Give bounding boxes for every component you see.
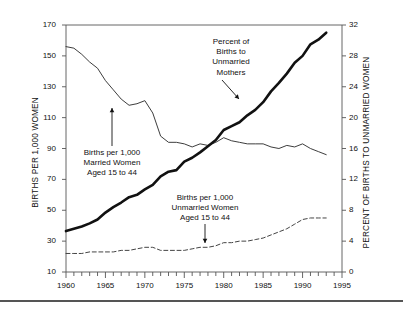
y-axis-right-tick-label: 8 xyxy=(349,205,369,214)
y-axis-right-tick-label: 16 xyxy=(349,144,369,153)
y-axis-right-tick-label: 20 xyxy=(349,113,369,122)
unmarried-annotation-line-3: Aged 15 to 44 xyxy=(150,213,260,223)
y-axis-left-tick-label: 130 xyxy=(30,82,56,91)
y-axis-left-tick-label: 170 xyxy=(30,20,56,29)
y-axis-right-tick-label: 28 xyxy=(349,51,369,60)
unmarried-annotation-line-1: Births per 1,000 xyxy=(150,193,260,203)
x-axis-tick-label: 1975 xyxy=(167,281,201,290)
unmarried-women-annotation: Births per 1,000 Unmarried Women Aged 15… xyxy=(150,193,260,224)
married-arrow-head xyxy=(110,108,115,112)
y-axis-right-tick-label: 4 xyxy=(349,236,369,245)
y-axis-right-tick-label: 24 xyxy=(349,82,369,91)
percent-annotation-line-3: Unmarried xyxy=(192,57,270,67)
y-axis-right-title: PERCENT OF BIRTHS TO UNMARRIED WOMEN xyxy=(362,38,371,268)
x-axis-tick-label: 1990 xyxy=(286,281,320,290)
percent-annotation-line-2: Births to xyxy=(192,47,270,57)
y-axis-left-title: BIRTHS PER 1,000 WOMEN xyxy=(31,38,40,268)
bottom-divider-rule xyxy=(0,300,403,302)
y-axis-left-tick-label: 150 xyxy=(30,51,56,60)
x-axis-tick-label: 1960 xyxy=(49,281,83,290)
y-axis-left-tick-label: 90 xyxy=(30,144,56,153)
percent-annotation-line-4: Mothers xyxy=(192,68,270,78)
y-axis-left-tick-label: 30 xyxy=(30,236,56,245)
x-axis-tick-label: 1995 xyxy=(325,281,359,290)
y-axis-right-tick-label: 12 xyxy=(349,174,369,183)
y-axis-left-tick-label: 110 xyxy=(30,113,56,122)
y-axis-left-tick-label: 50 xyxy=(30,205,56,214)
married-women-annotation: Births per 1,000 Married Women Aged 15 t… xyxy=(60,148,164,179)
y-axis-left-tick-label: 10 xyxy=(30,267,56,276)
x-axis-tick-label: 1970 xyxy=(128,281,162,290)
married-annotation-line-3: Aged 15 to 44 xyxy=(60,168,164,178)
percent-annotation-line-1: Percent of xyxy=(192,37,270,47)
x-axis-tick-label: 1965 xyxy=(88,281,122,290)
unmarried-arrow-head xyxy=(203,239,208,243)
x-axis-tick-label: 1980 xyxy=(207,281,241,290)
y-axis-left-tick-label: 70 xyxy=(30,174,56,183)
y-axis-right-tick-label: 32 xyxy=(349,20,369,29)
unmarried-annotation-line-2: Unmarried Women xyxy=(150,203,260,213)
x-axis-tick-label: 1985 xyxy=(246,281,280,290)
married-annotation-line-1: Births per 1,000 xyxy=(60,148,164,158)
chart-figure: BIRTHS PER 1,000 WOMEN PERCENT OF BIRTHS… xyxy=(0,0,403,309)
y-axis-right-tick-label: 0 xyxy=(349,267,369,276)
married-annotation-line-2: Married Women xyxy=(60,158,164,168)
percent-unmarried-mothers-annotation: Percent of Births to Unmarried Mothers xyxy=(192,37,270,78)
